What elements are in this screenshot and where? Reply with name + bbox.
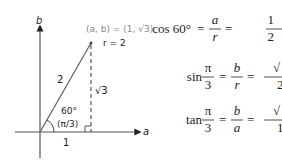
svg-text:2: 2 bbox=[277, 77, 282, 92]
cos-func: cos 60° bbox=[152, 21, 191, 36]
svg-text:π: π bbox=[205, 103, 212, 118]
svg-text:=: = bbox=[247, 112, 254, 127]
svg-text:=: = bbox=[219, 112, 226, 127]
svg-text:=: = bbox=[225, 21, 232, 36]
svg-text:=: = bbox=[247, 69, 254, 84]
adjacent-label: 1 bbox=[63, 137, 69, 148]
cos-equation: cos 60° = a r = 1 2 bbox=[152, 12, 282, 44]
svg-text:a: a bbox=[234, 120, 241, 135]
svg-text:2: 2 bbox=[268, 29, 275, 44]
angle-arc bbox=[47, 120, 54, 132]
svg-text:b: b bbox=[234, 103, 241, 118]
svg-text:3: 3 bbox=[205, 120, 212, 135]
svg-text:=: = bbox=[197, 21, 204, 36]
sin-equation: sin π 3 = b r = √ 2 bbox=[187, 60, 282, 92]
a-axis-label: a bbox=[143, 126, 149, 137]
svg-text:r: r bbox=[212, 29, 218, 44]
opposite-label: √3 bbox=[95, 85, 108, 96]
right-angle-marker bbox=[85, 126, 91, 132]
svg-text:√: √ bbox=[273, 103, 281, 118]
radius-label: r = 2 bbox=[103, 38, 126, 48]
svg-text:a: a bbox=[212, 12, 219, 27]
svg-text:3: 3 bbox=[205, 77, 212, 92]
svg-text:π: π bbox=[205, 60, 212, 75]
b-axis-label: b bbox=[36, 15, 42, 26]
svg-text:1: 1 bbox=[277, 120, 282, 135]
svg-text:tan: tan bbox=[186, 112, 202, 127]
angle-deg-label: 60° bbox=[61, 106, 77, 116]
svg-text:√: √ bbox=[273, 60, 281, 75]
point-dot bbox=[90, 42, 93, 45]
svg-text:1: 1 bbox=[268, 12, 275, 27]
svg-text:sin: sin bbox=[187, 69, 203, 84]
svg-text:=: = bbox=[219, 69, 226, 84]
tan-equation: tan π 3 = b a = √ 1 bbox=[186, 103, 282, 135]
svg-text:b: b bbox=[234, 60, 241, 75]
trig-diagram: b a (a, b) = (1, √3) r = 2 2 √3 60° (π/3… bbox=[0, 0, 282, 163]
point-label: (a, b) = (1, √3) bbox=[86, 24, 153, 34]
angle-rad-label: (π/3) bbox=[57, 119, 78, 129]
hypotenuse-label: 2 bbox=[57, 74, 63, 85]
svg-text:r: r bbox=[234, 77, 240, 92]
